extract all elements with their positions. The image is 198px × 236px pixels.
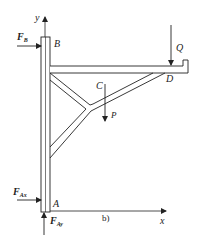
force-q-label: Q (176, 42, 184, 53)
force-fay-label: FAy (49, 215, 63, 227)
figure-caption: b) (102, 213, 110, 223)
point-b-label: B (54, 38, 60, 49)
force-p-label: P (110, 110, 117, 120)
force-fb-label: FB (16, 31, 28, 43)
frame-diagram: y x B A C D P Q FB FAx FAy b) (0, 0, 198, 236)
x-axis-label: x (159, 215, 165, 226)
y-axis-label: y (34, 12, 40, 23)
point-c-label: C (96, 80, 103, 91)
horizontal-beam (50, 60, 188, 73)
bracket-braces (50, 73, 165, 158)
force-fax-label: FAx (12, 186, 27, 198)
point-a-label: A (52, 198, 60, 209)
point-d-label: D (165, 73, 174, 84)
